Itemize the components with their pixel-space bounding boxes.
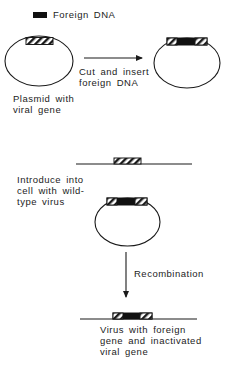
caption-cut-insert: Cut and insert foreign DNA [79, 66, 149, 88]
viral-gene-segment [114, 158, 141, 164]
caption-line: Introduce into [17, 174, 84, 185]
caption-line: Cut and insert [79, 66, 149, 77]
viral-gene-segment [26, 38, 53, 45]
caption-plasmid-original: Plasmid with viral gene [13, 93, 74, 115]
legend-swatch-foreign-dna [33, 12, 47, 18]
caption-line: gene and inactivated [100, 335, 202, 346]
foreign-dna-segment [117, 198, 135, 205]
foreign-dna-segment [177, 38, 195, 45]
viral-gene-fragment-right [135, 198, 147, 205]
caption-line: type virus [17, 196, 84, 207]
caption-introduce: Introduce into cell with wild- type viru… [17, 174, 84, 207]
plasmid-introduced [95, 198, 160, 246]
caption-line: Virus with foreign [100, 324, 202, 335]
recombinant-virus-dna [80, 313, 197, 319]
caption-result: Virus with foreign gene and inactivated … [100, 324, 202, 357]
viral-gene-fragment-left [113, 313, 123, 319]
plasmid-recombinant [154, 38, 220, 88]
label-recombination: Recombination [134, 268, 204, 279]
foreign-dna-segment [123, 313, 140, 319]
caption-line: viral gene [13, 104, 74, 115]
caption-line: Plasmid with [13, 93, 74, 104]
caption-line: cell with wild- [17, 185, 84, 196]
viral-gene-fragment-right [140, 313, 152, 319]
wild-type-virus-dna [76, 158, 192, 164]
legend-label: Foreign DNA [53, 9, 115, 20]
viral-gene-fragment-left [167, 38, 177, 45]
caption-line: foreign DNA [79, 77, 149, 88]
caption-line: viral gene [100, 346, 202, 357]
viral-gene-fragment-left [107, 198, 117, 205]
viral-gene-fragment-right [195, 38, 207, 45]
plasmid-original [5, 36, 73, 86]
